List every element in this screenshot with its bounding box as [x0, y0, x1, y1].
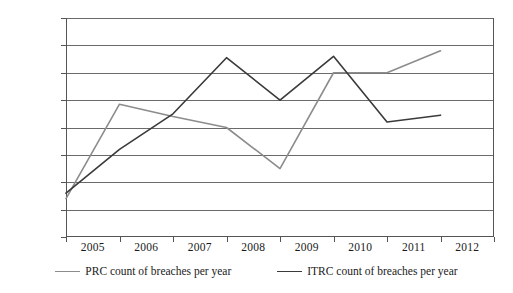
- legend-entry[interactable]: ITRC count of breaches per year: [277, 265, 457, 278]
- legend-swatch: [277, 271, 302, 272]
- legend-label: ITRC count of breaches per year: [307, 265, 457, 278]
- series-line: [66, 51, 441, 199]
- legend-entry[interactable]: PRC count of breaches per year: [55, 265, 231, 278]
- chart-legend: PRC count of breaches per yearITRC count…: [0, 265, 513, 278]
- legend-swatch: [55, 271, 80, 272]
- line-chart-figure: 8007006005004003002001000 20052006200720…: [0, 0, 513, 293]
- plot-wrapper: 8007006005004003002001000 20052006200720…: [0, 0, 513, 258]
- legend-label: PRC count of breaches per year: [85, 265, 231, 278]
- series-line: [66, 56, 441, 193]
- series-layer: [0, 0, 513, 258]
